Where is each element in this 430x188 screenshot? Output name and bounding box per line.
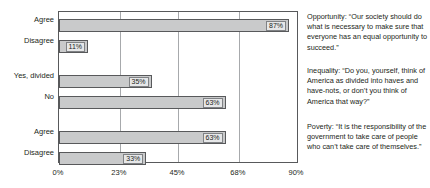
y-axis-label-text: Disagree <box>24 148 54 157</box>
x-tick-label-text: 23% <box>111 168 126 177</box>
bar-row[interactable]: 33% <box>59 152 297 165</box>
bar-row[interactable]: 63% <box>59 131 297 144</box>
bar-value-label: 11% <box>66 42 86 52</box>
bar-no-inequality[interactable]: 63% <box>59 96 226 109</box>
x-tick-68: 68% <box>230 168 245 177</box>
y-axis-label-disagree-poverty: Disagree <box>0 148 54 157</box>
plot-area: 87% 11% 35% 63% 63% 33% <box>58 11 298 163</box>
x-tick-0: 0% <box>53 168 64 177</box>
bar-value-label: 35% <box>129 77 149 87</box>
y-axis-label-yes-divided: Yes, divided <box>0 71 54 80</box>
y-axis-label-agree-opportunity: Agree <box>0 15 54 24</box>
annotation-poverty: Poverty: “It is the responsibility of th… <box>307 122 430 153</box>
x-tick-90: 90% <box>288 168 303 177</box>
bar-value-label: 33% <box>123 154 143 164</box>
annotation-opportunity: Opportunity: “Our society should do what… <box>307 12 430 53</box>
bar-disagree-poverty[interactable]: 33% <box>59 152 146 165</box>
x-tick-label-text: 68% <box>230 168 245 177</box>
bar-chart-figure: 87% 11% 35% 63% 63% 33% <box>0 0 430 188</box>
bar-row[interactable]: 11% <box>59 40 297 53</box>
bar-agree-opportunity[interactable]: 87% <box>59 19 289 32</box>
y-axis-label-text: Agree <box>34 127 54 136</box>
x-tick-23: 23% <box>111 168 126 177</box>
bar-disagree-opportunity[interactable]: 11% <box>59 40 88 53</box>
x-tick-label-text: 0% <box>53 168 64 177</box>
bar-row[interactable]: 35% <box>59 75 297 88</box>
y-axis-label-text: Disagree <box>24 36 54 45</box>
bar-value-label: 87% <box>266 21 286 31</box>
x-tick-45: 45% <box>169 168 184 177</box>
y-axis-label-text: Yes, divided <box>14 71 54 80</box>
annotation-inequality: Inequality: “Do you, yourself, think of … <box>307 66 430 107</box>
bar-row[interactable]: 63% <box>59 96 297 109</box>
x-tick-label-text: 90% <box>288 168 303 177</box>
y-axis-label-disagree-opportunity: Disagree <box>0 36 54 45</box>
bar-agree-poverty[interactable]: 63% <box>59 131 226 144</box>
y-axis-label-text: Agree <box>34 15 54 24</box>
bar-value-label: 63% <box>203 133 223 143</box>
y-axis-label-text: No <box>44 92 54 101</box>
y-axis-label-agree-poverty: Agree <box>0 127 54 136</box>
y-axis-label-no: No <box>0 92 54 101</box>
x-tick-label-text: 45% <box>169 168 184 177</box>
bar-yes-divided-inequality[interactable]: 35% <box>59 75 152 88</box>
bar-row[interactable]: 87% <box>59 19 297 32</box>
bar-value-label: 63% <box>203 98 223 108</box>
